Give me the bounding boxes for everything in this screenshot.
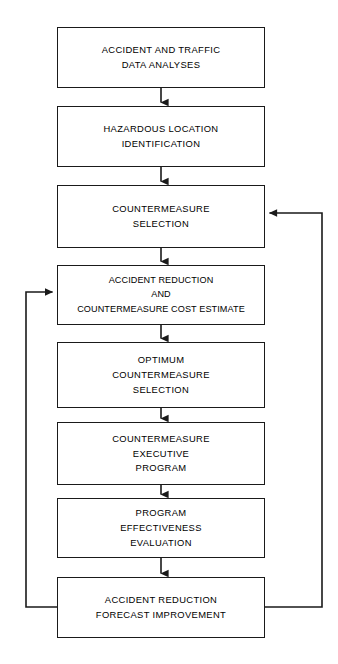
node-line: OPTIMUM: [138, 353, 185, 368]
node-line: COUNTERMEASURE: [112, 368, 210, 383]
flowchart-connectors: [0, 0, 338, 664]
node-line: HAZARDOUS LOCATION: [104, 122, 219, 137]
node-line: SELECTION: [133, 217, 189, 232]
node-line: FORECAST IMPROVEMENT: [96, 608, 226, 623]
node-line: AND: [151, 288, 171, 302]
connector-feedback-right: [265, 213, 322, 607]
node-program-effectiveness-evaluation: PROGRAM EFFECTIVENESS EVALUATION: [57, 498, 265, 558]
node-line: DATA ANALYSES: [122, 58, 201, 73]
node-line: COUNTERMEASURE: [112, 202, 210, 217]
node-line: ACCIDENT REDUCTION: [105, 593, 217, 608]
node-line: PROGRAM: [136, 506, 187, 521]
flowchart-canvas: ACCIDENT AND TRAFFIC DATA ANALYSES HAZAR…: [0, 0, 338, 664]
node-line: ACCIDENT AND TRAFFIC: [102, 43, 221, 58]
node-line: EFFECTIVENESS: [120, 521, 202, 536]
node-line: PROGRAM: [136, 461, 187, 476]
node-countermeasure-selection: COUNTERMEASURE SELECTION: [57, 185, 265, 248]
node-accident-and-traffic-data-analyses: ACCIDENT AND TRAFFIC DATA ANALYSES: [57, 27, 265, 88]
node-accident-reduction-and-countermeasure-cost-estimate: ACCIDENT REDUCTION AND COUNTERMEASURE CO…: [57, 265, 265, 325]
node-line: COUNTERMEASURE: [112, 432, 210, 447]
node-accident-reduction-forecast-improvement: ACCIDENT REDUCTION FORECAST IMPROVEMENT: [57, 577, 265, 638]
node-line: COUNTERMEASURE COST ESTIMATE: [77, 302, 245, 316]
node-line: EVALUATION: [130, 535, 192, 550]
node-countermeasure-executive-program: COUNTERMEASURE EXECUTIVE PROGRAM: [57, 422, 265, 485]
node-line: IDENTIFICATION: [122, 137, 201, 152]
node-optimum-countermeasure-selection: OPTIMUM COUNTERMEASURE SELECTION: [57, 342, 265, 408]
node-hazardous-location-identification: HAZARDOUS LOCATION IDENTIFICATION: [57, 106, 265, 167]
node-line: EXECUTIVE: [133, 446, 189, 461]
connector-feedback-left: [26, 292, 57, 607]
node-line: ACCIDENT REDUCTION: [109, 274, 214, 288]
node-line: SELECTION: [133, 382, 189, 397]
